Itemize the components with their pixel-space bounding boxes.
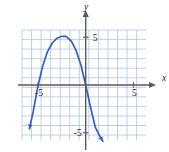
coordinate-plane: -555-5xy — [0, 0, 169, 152]
x-axis-arrowhead — [149, 82, 156, 88]
x-tick-label--5: -5 — [35, 88, 43, 98]
x-tick-label-5: 5 — [132, 88, 137, 98]
y-tick-label-5: 5 — [93, 33, 98, 43]
x-axis-label: x — [161, 73, 167, 83]
y-axis-label: y — [83, 2, 89, 12]
y-tick-label--5: -5 — [74, 128, 82, 138]
graph-figure: -555-5xy — [0, 0, 169, 152]
